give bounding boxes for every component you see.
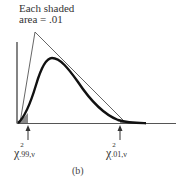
density-curve <box>18 58 146 123</box>
subscript: .01,ν <box>111 150 127 159</box>
superscript: 2 <box>112 141 116 149</box>
right-critical-arrow <box>118 125 123 140</box>
superscript: 2 <box>20 141 24 149</box>
left-critical-value-label: χ2.99,ν <box>14 145 37 161</box>
right-critical-value-label: χ2.01,ν <box>106 145 129 161</box>
triangle-right-edge <box>35 32 125 122</box>
left-critical-arrow <box>26 125 31 140</box>
panel-label: (b) <box>72 165 84 176</box>
subscript: .99,ν <box>19 150 35 159</box>
